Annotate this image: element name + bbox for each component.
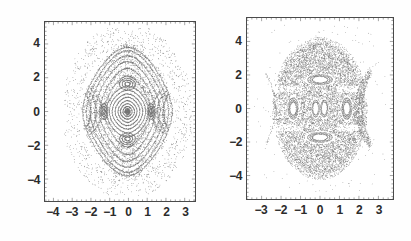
y-tick-label: −2 bbox=[229, 136, 242, 148]
y-tick-label: 4 bbox=[33, 37, 40, 49]
x-tick-label: 0 bbox=[317, 204, 324, 216]
y-tick-label: −4 bbox=[27, 174, 40, 186]
x-tick-label: −4 bbox=[46, 206, 59, 218]
y-tick-label: 0 bbox=[235, 103, 242, 115]
x-tick-label: 3 bbox=[376, 204, 383, 216]
x-tick-label: 1 bbox=[144, 206, 151, 218]
x-tick-label: −2 bbox=[84, 206, 97, 218]
x-axis-tick-labels-left: −4−3−2−10123 bbox=[44, 206, 196, 222]
x-tick-label: 3 bbox=[182, 206, 189, 218]
x-tick-label: 2 bbox=[356, 204, 363, 216]
plot-canvas-left bbox=[45, 22, 195, 201]
x-tick-label: 1 bbox=[336, 204, 343, 216]
poincare-section-right-panel: 420−2−4 −3−2−10123 bbox=[205, 0, 411, 241]
x-tick-label: −1 bbox=[294, 204, 307, 216]
y-tick-label: 2 bbox=[235, 69, 242, 81]
x-tick-label: −3 bbox=[254, 204, 267, 216]
x-axis-tick-labels-right: −3−2−10123 bbox=[246, 204, 394, 220]
x-tick-label: 0 bbox=[125, 206, 132, 218]
plot-canvas-right bbox=[247, 18, 393, 199]
x-tick-label: −2 bbox=[274, 204, 287, 216]
y-tick-label: −4 bbox=[229, 170, 242, 182]
x-tick-label: −3 bbox=[65, 206, 78, 218]
x-tick-label: 2 bbox=[163, 206, 170, 218]
x-tick-label: −1 bbox=[103, 206, 116, 218]
two-panel-phase-space-figure: 420−2−4 −4−3−2−10123 420−2−4 −3−2−10123 bbox=[0, 0, 411, 241]
plot-area-right bbox=[246, 17, 394, 200]
y-tick-label: 2 bbox=[33, 71, 40, 83]
y-axis-tick-labels-right: 420−2−4 bbox=[222, 17, 244, 200]
y-axis-tick-labels-left: 420−2−4 bbox=[20, 21, 42, 202]
poincare-section-left-panel: 420−2−4 −4−3−2−10123 bbox=[0, 0, 205, 241]
y-tick-label: 0 bbox=[33, 106, 40, 118]
plot-area-left bbox=[44, 21, 196, 202]
y-tick-label: 4 bbox=[235, 35, 242, 47]
y-tick-label: −2 bbox=[27, 140, 40, 152]
